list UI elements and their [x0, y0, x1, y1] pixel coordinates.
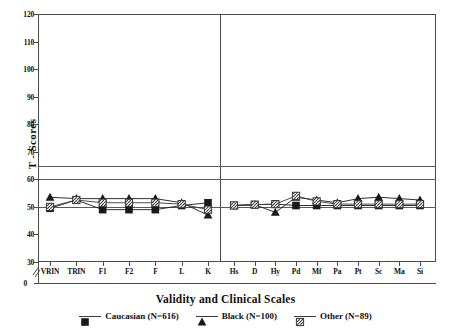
data-point — [396, 201, 403, 208]
data-point — [374, 193, 383, 201]
y-tick-90: 90 — [27, 92, 34, 101]
x-tick-mark-Pa — [337, 262, 338, 266]
x-tick-mark-Si — [420, 262, 421, 266]
data-point — [152, 206, 160, 214]
x-tick-D: D — [252, 267, 257, 276]
y-tick-120: 120 — [23, 10, 34, 19]
x-tick-Si: Si — [417, 267, 423, 276]
plot-area: 30405060708090100110120 — [38, 14, 436, 262]
x-tick-mark-TRIN — [76, 262, 77, 266]
data-point — [292, 192, 299, 199]
legend-marker-hatched-square-icon — [294, 316, 316, 317]
series-layer — [38, 14, 436, 262]
legend-label: Caucasian (N=616) — [105, 311, 178, 321]
data-point — [416, 201, 423, 208]
legend-label: Other (N=89) — [320, 311, 372, 321]
x-tick-Pt: Pt — [355, 267, 362, 276]
x-tick-Mf: Mf — [312, 267, 321, 276]
x-tick-mark-F2 — [129, 262, 130, 266]
legend-marker-filled-square-icon — [79, 316, 101, 317]
x-tick-Pa: Pa — [333, 267, 341, 276]
x-tick-K: K — [205, 267, 211, 276]
y-tick-60: 60 — [27, 175, 34, 184]
legend-item-1[interactable]: Black (N=100) — [196, 311, 277, 321]
x-tick-F: F — [153, 267, 157, 276]
x-tick-Sc: Sc — [375, 267, 382, 276]
series-line — [234, 196, 420, 206]
data-point — [99, 199, 106, 206]
x-tick-mark-F1 — [103, 262, 104, 266]
data-point — [152, 199, 159, 206]
data-point — [178, 201, 185, 208]
x-tick-F2: F2 — [125, 267, 133, 276]
x-tick-mark-Mf — [317, 262, 318, 266]
x-tick-TRIN: TRIN — [67, 267, 85, 276]
data-point — [292, 202, 300, 210]
y-tick-zero: 0 — [23, 279, 27, 288]
data-point — [46, 203, 53, 210]
x-tick-mark-Pd — [296, 262, 297, 266]
x-tick-VRIN: VRIN — [41, 267, 59, 276]
data-point — [354, 201, 361, 208]
x-tick-L: L — [179, 267, 184, 276]
x-tick-mark-D — [255, 262, 256, 266]
x-tick-mark-Hy — [275, 262, 276, 266]
data-point — [334, 201, 341, 208]
data-point — [204, 199, 212, 207]
y-tick-110: 110 — [24, 37, 34, 46]
chart-figure: T - Scores 30405060708090100110120 0 VRI… — [0, 0, 451, 330]
x-tick-mark-VRIN — [50, 262, 51, 266]
legend: Caucasian (N=616)Black (N=100)Other (N=8… — [0, 311, 451, 321]
data-point — [313, 198, 320, 205]
data-point — [271, 208, 280, 216]
y-tick-40: 40 — [27, 230, 34, 239]
data-point — [272, 201, 279, 208]
data-point — [99, 206, 107, 214]
legend-item-0[interactable]: Caucasian (N=616) — [79, 311, 178, 321]
y-tick-70: 70 — [27, 147, 34, 156]
legend-item-2[interactable]: Other (N=89) — [294, 311, 372, 321]
x-axis-ticks: VRINTRINF1F2FLKHsDHyPdMfPaPtScMaSi — [38, 262, 436, 292]
x-tick-mark-Hs — [234, 262, 235, 266]
x-tick-mark-Pt — [358, 262, 359, 266]
x-tick-mark-L — [182, 262, 183, 266]
data-point — [251, 201, 258, 208]
data-point — [73, 196, 80, 203]
x-tick-mark-Ma — [399, 262, 400, 266]
x-tick-F1: F1 — [99, 267, 107, 276]
x-tick-mark-Sc — [379, 262, 380, 266]
y-tick-80: 80 — [27, 120, 34, 129]
x-axis-title: Validity and Clinical Scales — [0, 293, 451, 305]
data-point — [46, 193, 55, 201]
data-point — [204, 206, 211, 213]
data-point — [125, 206, 133, 214]
x-tick-Hy: Hy — [271, 267, 280, 276]
legend-label: Black (N=100) — [222, 311, 277, 321]
data-point — [125, 199, 132, 206]
y-tick-50: 50 — [27, 202, 34, 211]
legend-marker-filled-triangle-icon — [196, 316, 218, 317]
y-tick-100: 100 — [23, 65, 34, 74]
x-tick-Pd: Pd — [292, 267, 300, 276]
x-tick-Hs: Hs — [230, 267, 238, 276]
data-point — [375, 201, 382, 208]
x-tick-mark-K — [208, 262, 209, 266]
x-tick-Ma: Ma — [394, 267, 404, 276]
x-tick-mark-F — [155, 262, 156, 266]
data-point — [230, 202, 237, 209]
